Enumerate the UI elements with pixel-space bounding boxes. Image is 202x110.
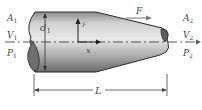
label-axis-x: x — [86, 46, 91, 55]
label-P2: P2 — [182, 48, 193, 59]
label-A2: A2 — [182, 13, 194, 24]
label-V2: V2 — [183, 30, 194, 41]
nozzle-diagram: d1 F x F A1 V1 P1 A2 V2 P2 L — [0, 0, 202, 110]
label-force: F — [135, 6, 143, 16]
label-A1: A1 — [6, 13, 17, 24]
flow-arrow-head-outlet — [196, 40, 201, 45]
label-length: L — [94, 85, 102, 96]
label-axis-y: F — [81, 21, 87, 28]
label-P1: P1 — [6, 48, 17, 59]
label-V1: V1 — [7, 30, 17, 41]
